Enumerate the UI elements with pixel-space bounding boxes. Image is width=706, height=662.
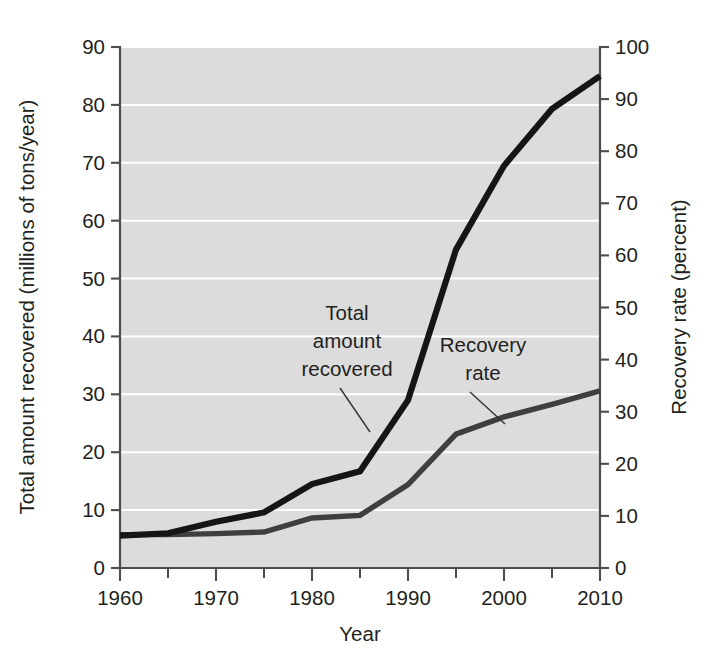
y-axis-left-title: Total amount recovered (millions of tons… (15, 100, 38, 515)
y-axis-right-ticks (600, 47, 609, 568)
y-axis-left-tick-labels: 0102030405060708090 (82, 35, 105, 579)
y-axis-right-tick-label: 100 (615, 35, 649, 58)
line-chart: 0102030405060708090 01020304050607080901… (0, 0, 706, 662)
y-axis-left-tick-label: 40 (82, 324, 105, 347)
chart-figure: 0102030405060708090 01020304050607080901… (0, 0, 706, 662)
annotation-total-line2: amount (313, 329, 382, 352)
y-axis-right-tick-label: 70 (615, 191, 638, 214)
y-axis-left-tick-label: 60 (82, 209, 105, 232)
y-axis-left-tick-label: 90 (82, 35, 105, 58)
y-axis-right-tick-labels: 0102030405060708090100 (615, 35, 649, 579)
x-axis-tick-label: 2010 (577, 586, 623, 609)
x-axis-tick-label: 1990 (385, 586, 431, 609)
y-axis-right-tick-label: 40 (615, 348, 638, 371)
y-axis-left-tick-label: 20 (82, 440, 105, 463)
x-axis-tick-label: 2000 (481, 586, 527, 609)
y-axis-left-tick-label: 50 (82, 267, 105, 290)
y-axis-left-ticks (111, 47, 120, 568)
y-axis-right-tick-label: 10 (615, 504, 638, 527)
annotation-total-line3: recovered (301, 357, 392, 380)
y-axis-right-title: Recovery rate (percent) (667, 199, 690, 414)
y-axis-left-tick-label: 0 (94, 556, 105, 579)
x-axis-title: Year (339, 622, 381, 645)
y-axis-right-tick-label: 50 (615, 296, 638, 319)
x-axis-tick-label: 1980 (289, 586, 335, 609)
annotation-rate-line1: Recovery (440, 333, 527, 356)
annotation-rate-line2: rate (465, 361, 500, 384)
x-axis-ticks (120, 568, 600, 581)
y-axis-right-tick-label: 20 (615, 452, 638, 475)
x-axis-tick-label: 1960 (97, 586, 143, 609)
x-axis-tick-label: 1970 (193, 586, 239, 609)
y-axis-left-tick-label: 30 (82, 382, 105, 405)
y-axis-left-tick-label: 80 (82, 93, 105, 116)
y-axis-right-tick-label: 60 (615, 243, 638, 266)
y-axis-left-tick-label: 10 (82, 498, 105, 521)
y-axis-right-tick-label: 30 (615, 400, 638, 423)
y-axis-right-tick-label: 80 (615, 139, 638, 162)
annotation-total-line1: Total (325, 301, 368, 324)
y-axis-right-tick-label: 90 (615, 87, 638, 110)
x-axis-tick-labels: 196019701980199020002010 (97, 586, 623, 609)
y-axis-right-tick-label: 0 (615, 556, 626, 579)
y-axis-left-tick-label: 70 (82, 151, 105, 174)
